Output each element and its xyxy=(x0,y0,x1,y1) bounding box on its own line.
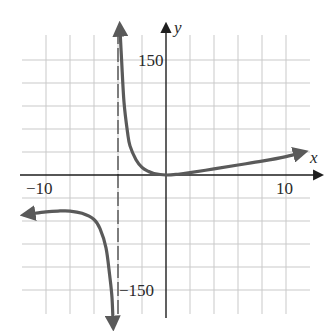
curve-left-branch xyxy=(24,211,113,327)
x-tick-label: −10 xyxy=(26,179,53,198)
x-axis-label: x xyxy=(309,148,318,167)
function-graph: −1010150−150xy xyxy=(0,0,332,331)
curve-right-branch xyxy=(120,26,304,176)
axes xyxy=(20,24,322,318)
y-axis-label: y xyxy=(172,18,182,37)
y-tick-label: −150 xyxy=(119,281,154,300)
x-tick-label: 10 xyxy=(276,179,293,198)
y-tick-label: 150 xyxy=(138,51,164,70)
